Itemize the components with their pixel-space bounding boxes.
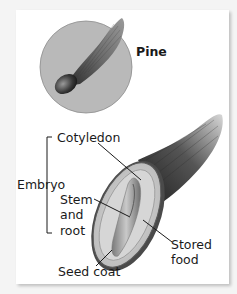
label-stored: Stored [171,238,212,251]
label-embryo: Embryo [17,178,65,191]
label-cotyledon: Cotyledon [57,131,120,144]
label-and: and [60,208,84,221]
label-stem: Stem [60,193,93,206]
label-seed-coat: Seed coat [58,265,120,278]
pine-inset [40,18,132,113]
label-pine: Pine [136,45,167,58]
label-root: root [60,224,85,237]
label-food: food [171,253,199,266]
